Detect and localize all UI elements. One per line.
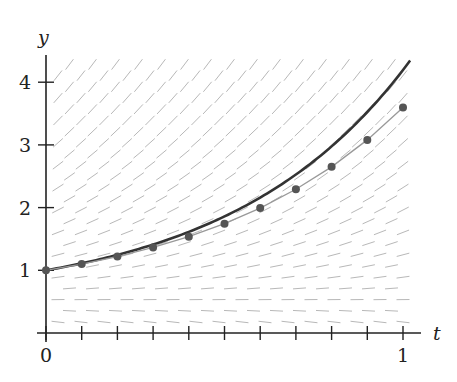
slope-dash (65, 104, 74, 114)
slope-dash (63, 242, 75, 246)
euler-point (113, 253, 121, 261)
slope-dash (330, 70, 338, 80)
slope-dash (178, 310, 191, 311)
slope-dash (178, 265, 191, 268)
slope-dash (98, 207, 110, 213)
slope-dash (293, 265, 306, 268)
slope-dash (53, 138, 63, 147)
slope-dash (190, 276, 203, 278)
slope-dash (213, 276, 226, 278)
euler-method-chart: t y 0 1 1 2 3 4 (0, 0, 457, 382)
euler-point (328, 163, 336, 171)
slope-dash (155, 288, 168, 289)
slope-dash (272, 82, 280, 92)
euler-point (363, 136, 371, 144)
slope-dash (352, 161, 362, 169)
slope-dash (306, 116, 315, 125)
slope-dash (169, 93, 178, 103)
slope-dash (282, 230, 294, 235)
slope-dash (167, 276, 180, 278)
slope-dash (386, 219, 398, 224)
slope-dash (374, 253, 387, 256)
slope-dash (192, 93, 201, 103)
euler-point (78, 260, 86, 268)
slope-dash (135, 59, 143, 69)
slope-dash (121, 276, 134, 278)
slope-dash (144, 253, 157, 256)
slope-dash (293, 310, 306, 311)
slope-dash (53, 161, 63, 169)
slope-dash (167, 207, 179, 213)
slope-dash (156, 219, 168, 224)
slope-dash (180, 104, 189, 114)
slope-dash (75, 230, 87, 235)
slope-dash (54, 70, 62, 80)
slope-dash (236, 230, 248, 235)
slope-dash (88, 127, 97, 136)
slope-dash (201, 242, 213, 246)
slope-dash (86, 265, 99, 268)
slope-dash (99, 184, 110, 191)
slope-dash (387, 104, 396, 114)
slope-dash (364, 127, 373, 136)
slope-dash (178, 288, 191, 289)
slope-dash (284, 70, 292, 80)
slope-dash (283, 138, 293, 147)
slope-dash (260, 184, 271, 191)
slope-dash (179, 173, 190, 180)
slope-dash (64, 150, 74, 158)
slope-dash (86, 310, 99, 311)
slope-dash (156, 196, 167, 202)
slope-dash (145, 116, 154, 125)
slope-dash (201, 288, 214, 289)
slope-dash (260, 161, 270, 169)
slope-dash (63, 288, 76, 289)
slope-dash (225, 150, 235, 158)
slope-dash (214, 184, 225, 191)
slope-dash (168, 116, 177, 125)
slope-dash (224, 288, 237, 289)
slope-dash (397, 276, 410, 278)
axes (37, 55, 421, 342)
slope-dash (111, 104, 120, 114)
slope-dash (144, 207, 156, 213)
slope-dash (282, 253, 295, 256)
slope-dash (76, 138, 86, 147)
slope-dash (271, 150, 281, 158)
slope-dash (316, 310, 329, 311)
slope-dash (272, 127, 281, 136)
slope-dash (76, 184, 87, 191)
slope-dash (89, 59, 97, 69)
slope-dash (237, 116, 246, 125)
slope-dash (339, 310, 352, 311)
slope-dash (397, 230, 409, 235)
slope-dash (122, 161, 132, 169)
slope-dash (168, 184, 179, 191)
slope-dash (386, 173, 397, 180)
slope-dash (340, 196, 351, 202)
slope-dash (305, 253, 318, 256)
slope-dash (146, 93, 155, 103)
slope-dash (305, 230, 317, 235)
slope-dash (191, 116, 200, 125)
slope-dash (109, 288, 122, 289)
slope-dash (157, 127, 166, 136)
slope-dash (75, 253, 88, 256)
slope-dash (363, 196, 374, 202)
slope-dash (387, 127, 396, 136)
slope-dash (328, 207, 340, 213)
slope-dash (87, 196, 98, 202)
slope-dash (169, 70, 177, 80)
slope-dash (282, 276, 295, 278)
slope-dash (247, 242, 259, 246)
slope-dash (237, 184, 248, 191)
slope-dash (157, 82, 165, 92)
slope-dash (190, 253, 203, 256)
slope-dash (226, 82, 234, 92)
slope-dash (374, 321, 387, 322)
slope-dash (191, 184, 202, 191)
slope-dash (397, 207, 409, 213)
slope-dash (158, 59, 166, 69)
slope-dash (179, 219, 191, 224)
slope-dash (316, 265, 329, 268)
